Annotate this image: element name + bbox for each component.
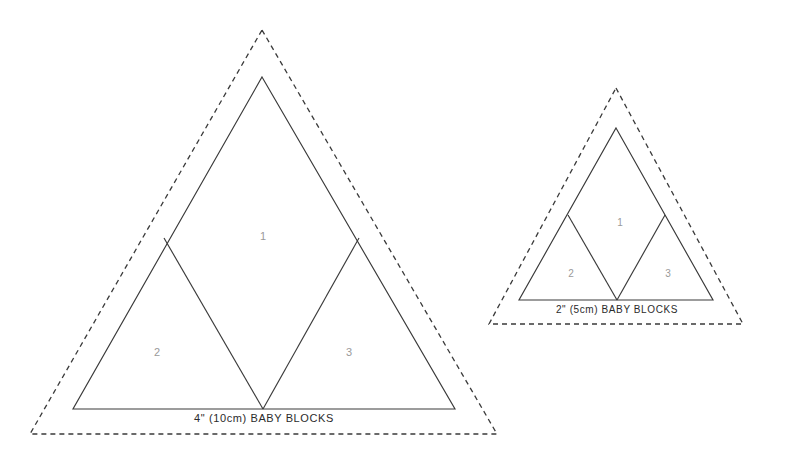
piece-number-1-large: 1	[260, 230, 266, 242]
piece-number-2-large: 2	[154, 346, 160, 358]
template-label-small: 2" (5cm) BABY BLOCKS	[556, 304, 678, 315]
piece-number-3-small: 3	[665, 268, 671, 279]
page-background	[0, 0, 787, 458]
piece-number-3-large: 3	[346, 346, 352, 358]
piece-number-2-small: 2	[568, 268, 574, 279]
piece-number-1-small: 1	[617, 217, 623, 228]
baby-blocks-template-sheet: 1 2 3 4" (10cm) BABY BLOCKS 1 2 3 2" (5c…	[0, 0, 787, 458]
template-label-large: 4" (10cm) BABY BLOCKS	[194, 412, 334, 424]
